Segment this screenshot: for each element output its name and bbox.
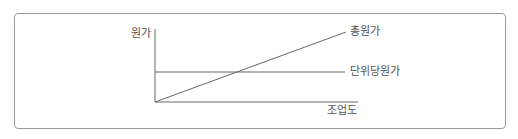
cost-graph [0,0,518,139]
y-axis-label: 원가 [131,28,151,40]
total-cost-line [155,32,346,102]
unit-cost-label: 단위당원가 [350,66,400,78]
x-axis-label: 조업도 [327,105,357,117]
total-cost-label: 총원가 [350,26,380,38]
